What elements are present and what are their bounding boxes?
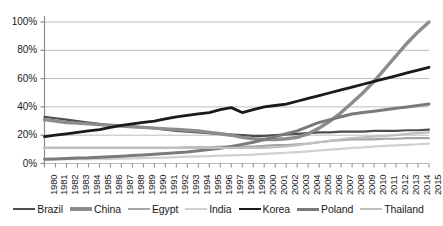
x-axis-tick-label: 1985	[103, 174, 113, 194]
chart-legend: BrazilChinaEgyptIndiaKoreaPolandThailand	[0, 199, 437, 219]
x-axis-tick-label: 2013	[411, 174, 421, 194]
x-axis-tick-label: 1987	[125, 174, 135, 194]
legend-item-egypt[interactable]: Egypt	[128, 204, 178, 215]
y-axis-tick-label: 20%	[3, 130, 37, 140]
legend-label: China	[94, 204, 121, 215]
x-axis-tick-label: 1998	[246, 174, 256, 194]
x-axis-tick-label: 1992	[180, 174, 190, 194]
x-axis-tick-label: 2010	[378, 174, 388, 194]
legend-swatch-icon	[13, 208, 35, 210]
x-axis-tick-label: 1995	[213, 174, 223, 194]
legend-label: Egypt	[152, 204, 178, 215]
x-axis-tick-label: 1999	[257, 174, 267, 194]
legend-swatch-icon	[185, 208, 207, 210]
x-axis-tick-label: 2002	[290, 174, 300, 194]
x-axis-tick-label: 1988	[136, 174, 146, 194]
legend-item-poland[interactable]: Poland	[297, 204, 353, 215]
legend-label: Brazil	[37, 204, 63, 215]
legend-label: India	[209, 204, 231, 215]
x-axis-tick-label: 1984	[92, 174, 102, 194]
x-axis-tick-label: 1991	[169, 174, 179, 194]
x-axis-tick-label: 1993	[191, 174, 201, 194]
x-axis-tick-label: 2003	[301, 174, 311, 194]
x-axis-tick-label: 2007	[345, 174, 355, 194]
legend-label: Korea	[263, 204, 291, 215]
legend-item-thailand[interactable]: Thailand	[360, 204, 423, 215]
legend-swatch-icon	[128, 208, 150, 210]
x-axis-tick-label: 2001	[279, 174, 289, 194]
legend-item-brazil[interactable]: Brazil	[13, 204, 63, 215]
x-axis-tick-label: 1996	[224, 174, 234, 194]
x-axis-tick-label: 1994	[202, 174, 212, 194]
x-axis-tick-label: 1981	[59, 174, 69, 194]
x-axis-tick-label: 2011	[389, 175, 399, 195]
legend-swatch-icon	[297, 208, 319, 211]
legend-item-india[interactable]: India	[185, 204, 231, 215]
x-axis-tick-label: 2005	[323, 174, 333, 194]
x-axis-tick-label: 1983	[81, 174, 91, 194]
legend-item-china[interactable]: China	[70, 204, 121, 215]
legend-swatch-icon	[239, 208, 261, 211]
y-axis-tick-label: 0%	[3, 159, 37, 169]
y-axis-tick-label: 60%	[3, 74, 37, 84]
x-axis-tick-label: 2009	[367, 174, 377, 194]
y-axis-tick-label: 40%	[3, 102, 37, 112]
x-axis-tick-label: 2004	[312, 174, 322, 194]
x-axis-tick-label: 1990	[158, 174, 168, 194]
x-axis-tick-label: 1997	[235, 174, 245, 194]
y-axis-tick-label: 100%	[3, 17, 37, 27]
x-axis-tick-label: 1986	[114, 174, 124, 194]
x-axis-tick-label: 1980	[49, 174, 59, 194]
x-axis-tick-label: 2014	[422, 174, 432, 194]
x-axis-tick-label: 1989	[147, 174, 157, 194]
x-axis-tick-label: 2006	[334, 174, 344, 194]
legend-swatch-icon	[70, 207, 92, 210]
x-axis-tick-label: 2008	[356, 174, 366, 194]
x-axis-tick-label: 2015	[433, 174, 443, 194]
legend-item-korea[interactable]: Korea	[239, 204, 291, 215]
legend-swatch-icon	[360, 208, 382, 210]
legend-label: Thailand	[384, 204, 423, 215]
legend-label: Poland	[321, 204, 353, 215]
y-axis-tick-label: 80%	[3, 45, 37, 55]
x-axis-tick-label: 2000	[268, 174, 278, 194]
x-axis-tick-label: 2012	[400, 174, 410, 194]
x-axis-tick-label: 1982	[70, 174, 80, 194]
